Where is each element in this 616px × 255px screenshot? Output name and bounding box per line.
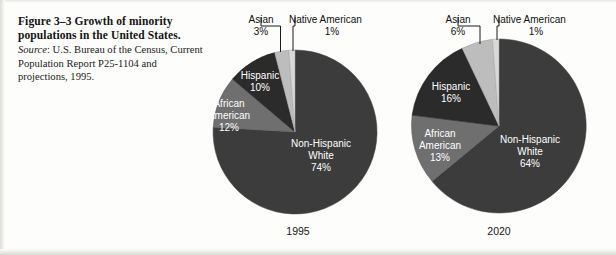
page-edge-top	[0, 0, 616, 3]
figure-caption-title: Figure 3–3 Growth of minority population…	[18, 14, 208, 42]
callout-native-american-name-1995: Native American	[289, 14, 362, 25]
page-edge-left	[0, 0, 5, 255]
chart-year-label-1995: 1995	[268, 225, 328, 237]
figure-page: Figure 3–3 Growth of minority population…	[0, 0, 616, 255]
figure-caption: Figure 3–3 Growth of minority population…	[18, 14, 208, 83]
slice-label-non-hispanic-white-1995: Non-Hispanic	[291, 138, 351, 149]
slice-label-hispanic-2020: Hispanic	[432, 81, 470, 92]
figure-caption-source: Source: U.S. Bureau of the Census, Curre…	[18, 43, 208, 83]
pie-chart-1995: Non-Hispanic White 74% Hispanic 10% Afri…	[196, 4, 391, 252]
callout-native-american-2020: Native American 1%	[493, 14, 585, 37]
slice-label-hispanic-pct-1995: 10%	[250, 82, 270, 93]
callout-asian-1995: Asian 3%	[234, 14, 288, 37]
pie-chart-2020-svg: Non-Hispanic White 64% Hispanic 16% Afri…	[396, 4, 611, 224]
callout-asian-name-2020: Asian	[445, 14, 470, 25]
slice-label-non-hispanic-white-line2-1995: White	[308, 150, 334, 161]
slice-label-hispanic-1995: Hispanic	[241, 70, 279, 81]
callout-asian-2020: Asian 6%	[432, 14, 484, 37]
slice-label-african-american-1995: African	[213, 98, 244, 109]
callout-native-american-1995: Native American 1%	[289, 14, 381, 37]
slice-label-african-american-line2-1995: American	[208, 110, 250, 121]
slice-label-african-american-2020: African	[424, 128, 455, 139]
callout-asian-pct-2020: 6%	[432, 26, 484, 38]
callout-asian-name-1995: Asian	[248, 14, 273, 25]
slice-label-african-american-pct-1995: 12%	[219, 122, 239, 133]
callout-native-american-name-2020: Native American	[493, 14, 566, 25]
slice-label-african-american-line2-2020: American	[419, 140, 461, 151]
slice-label-non-hispanic-white-pct-2020: 64%	[520, 158, 540, 169]
pie-chart-2020: Non-Hispanic White 64% Hispanic 16% Afri…	[396, 4, 611, 252]
callout-asian-pct-1995: 3%	[234, 26, 288, 38]
slice-label-hispanic-pct-2020: 16%	[441, 93, 461, 104]
chart-year-label-2020: 2020	[469, 225, 529, 237]
callout-native-american-pct-1995: 1%	[289, 26, 375, 38]
pie-chart-1995-svg: Non-Hispanic White 74% Hispanic 10% Afri…	[196, 4, 391, 224]
callout-native-american-pct-2020: 1%	[493, 26, 579, 38]
slice-label-non-hispanic-white-line2-2020: White	[517, 146, 543, 157]
slice-label-african-american-pct-2020: 13%	[430, 152, 450, 163]
slice-label-non-hispanic-white-pct-1995: 74%	[311, 162, 331, 173]
source-label: Source	[18, 44, 47, 55]
slice-label-non-hispanic-white-2020: Non-Hispanic	[500, 134, 560, 145]
